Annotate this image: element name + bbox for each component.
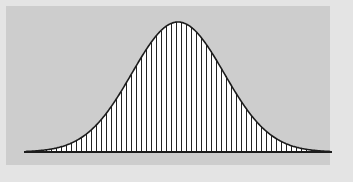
chart-figure: [0, 0, 353, 182]
margin-strip-left: [0, 0, 6, 182]
margin-strip-top: [0, 0, 353, 6]
margin-strip-bottom: [0, 165, 353, 182]
margin-strip-right: [330, 0, 353, 182]
plot-surface: [0, 0, 353, 182]
normal-distribution-chart: [0, 0, 353, 182]
